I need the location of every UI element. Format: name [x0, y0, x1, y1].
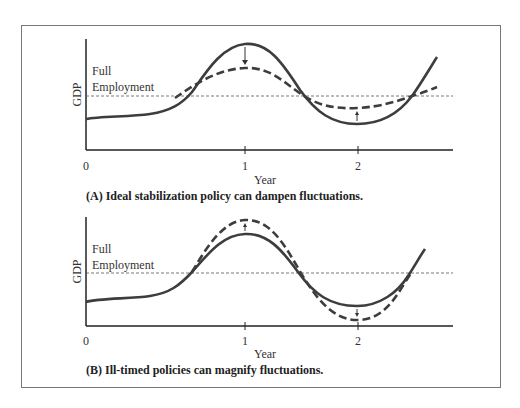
panel-a-y-label: GDP: [70, 82, 85, 108]
panel-b-x-label: Year: [254, 348, 276, 360]
panel-a-tick-label-2: 2: [355, 160, 361, 172]
panel-a-caption: (A) Ideal stabilization policy can dampe…: [86, 189, 363, 204]
panel-a-x-label: Year: [254, 174, 276, 186]
panel-b-tick-label-0: 0: [83, 335, 89, 347]
panel-b-down-arrow-icon: [355, 309, 359, 317]
panel-b-employment-label: Employment: [92, 259, 154, 271]
panel-b-tick-label-2: 2: [355, 335, 361, 347]
panel-a-employment-label: Employment: [92, 81, 154, 93]
panel-b-full-label: Full: [92, 243, 111, 255]
panel-a-up-arrow-icon: [355, 111, 359, 121]
panel-a-full-label: Full: [92, 65, 111, 77]
panel-b-y-label: GDP: [70, 259, 85, 285]
panel-b-tick-label-1: 1: [242, 335, 248, 347]
panel-b-up-arrow-icon: [243, 223, 247, 231]
panel-a-tick-label-1: 1: [242, 160, 248, 172]
panel-b: [86, 217, 453, 330]
panel-a: [86, 39, 453, 154]
panel-a-tick-label-0: 0: [83, 160, 89, 172]
panel-a-dashed-curve: [175, 68, 437, 108]
panel-b-dashed-curve: [192, 220, 412, 320]
panel-b-caption: (B) Ill-timed policies can magnify fluct…: [86, 363, 323, 378]
panel-a-down-arrow-icon: [242, 47, 248, 65]
